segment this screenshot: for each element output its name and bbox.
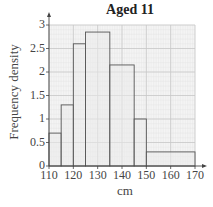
y-tick-label: 1.5 bbox=[15, 89, 45, 101]
histogram-bar bbox=[134, 119, 146, 166]
y-tick-label: 3 bbox=[15, 18, 45, 30]
histogram-bar bbox=[110, 65, 134, 166]
y-tick-label: 1 bbox=[15, 112, 45, 124]
histogram-bar bbox=[86, 32, 110, 166]
y-axis-arrow-icon bbox=[47, 12, 51, 17]
y-tick-label: 2.5 bbox=[15, 42, 45, 54]
y-tick-label: 2 bbox=[15, 65, 45, 77]
histogram-bar bbox=[73, 44, 85, 166]
x-tick-label: 170 bbox=[180, 168, 210, 183]
histogram-bar bbox=[61, 105, 73, 166]
histogram-bar bbox=[49, 133, 61, 166]
y-tick-label: 0.5 bbox=[15, 136, 45, 148]
histogram-bar bbox=[146, 152, 195, 166]
